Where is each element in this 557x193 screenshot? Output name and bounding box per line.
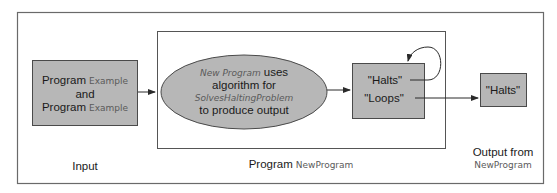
output-from-label: Output from bbox=[473, 146, 534, 158]
program-label: ProgramNewProgram bbox=[249, 158, 354, 170]
output-program-label: NewProgram bbox=[474, 160, 532, 170]
output-halts-label: "Halts" bbox=[486, 84, 520, 96]
input-line-2: and bbox=[75, 88, 94, 100]
ellipse-line-3: SolvesHaltingProblem bbox=[195, 93, 294, 103]
input-line-1: ProgramExample bbox=[42, 74, 129, 86]
decision-box bbox=[353, 64, 425, 119]
halting-diagram: ProgramExample and ProgramExample New Pr… bbox=[0, 0, 557, 193]
loops-label: "Loops" bbox=[364, 92, 404, 104]
algorithm-ellipse bbox=[161, 55, 327, 129]
ellipse-line-1: New Programuses bbox=[200, 66, 288, 78]
input-label: Input bbox=[72, 160, 98, 172]
halts-label: "Halts" bbox=[368, 74, 402, 86]
input-line-3: ProgramExample bbox=[42, 101, 129, 113]
ellipse-line-2: algorithm for bbox=[212, 79, 276, 91]
ellipse-line-4: to produce output bbox=[199, 104, 289, 116]
